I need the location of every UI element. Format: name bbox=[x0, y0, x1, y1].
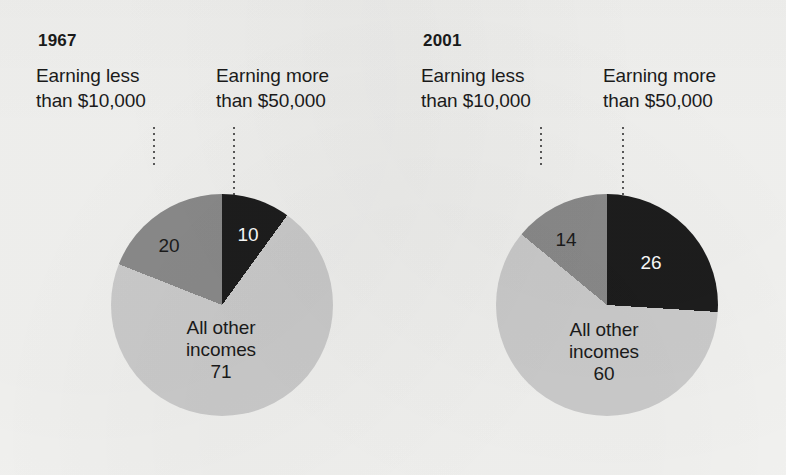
slice-value-all-other-incomes-1967: All other incomes 71 bbox=[186, 317, 256, 383]
callout-line-2: than $10,000 bbox=[421, 88, 531, 113]
callout-label-earning-more-1967: Earning more than $50,000 bbox=[216, 63, 329, 113]
slice-value-earning-more-1967: 10 bbox=[238, 224, 259, 246]
callout-line-1: Earning less bbox=[36, 63, 146, 88]
leader-line-earning-less-1967 bbox=[153, 127, 155, 167]
chart-title-1967: 1967 bbox=[38, 32, 77, 49]
callout-line-2: than $50,000 bbox=[603, 88, 716, 113]
slice-value-earning-less-1967: 20 bbox=[159, 235, 180, 257]
slice-value-all-other-incomes-2001: All other incomes 60 bbox=[569, 319, 639, 385]
slice-label-line-2: incomes bbox=[569, 341, 639, 363]
chart-panel-1967: 1967 Earning less than $10,000 Earning m… bbox=[0, 0, 393, 475]
leader-line-earning-more-2001 bbox=[622, 127, 624, 195]
callout-line-1: Earning more bbox=[216, 63, 329, 88]
callout-label-earning-less-1967: Earning less than $10,000 bbox=[36, 63, 146, 113]
pie-chart-2001: 26 14 All other incomes 60 bbox=[496, 194, 718, 416]
callout-line-2: than $10,000 bbox=[36, 88, 146, 113]
slice-label-value: 71 bbox=[186, 361, 256, 383]
slice-label-line-1: All other bbox=[186, 317, 256, 339]
callout-label-earning-less-2001: Earning less than $10,000 bbox=[421, 63, 531, 113]
pie-chart-1967: 10 20 All other incomes 71 bbox=[111, 194, 333, 416]
leader-line-earning-less-2001 bbox=[540, 127, 542, 169]
callout-label-earning-more-2001: Earning more than $50,000 bbox=[603, 63, 716, 113]
chart-title-2001: 2001 bbox=[423, 32, 462, 49]
callout-line-2: than $50,000 bbox=[216, 88, 329, 113]
slice-value-earning-more-2001: 26 bbox=[641, 252, 662, 274]
slice-label-value: 60 bbox=[569, 363, 639, 385]
chart-panel-2001: 2001 Earning less than $10,000 Earning m… bbox=[385, 0, 786, 475]
leader-line-earning-more-1967 bbox=[233, 127, 235, 197]
callout-line-1: Earning less bbox=[421, 63, 531, 88]
slice-label-line-2: incomes bbox=[186, 339, 256, 361]
callout-line-1: Earning more bbox=[603, 63, 716, 88]
slice-value-earning-less-2001: 14 bbox=[556, 229, 577, 251]
slice-label-line-1: All other bbox=[569, 319, 639, 341]
